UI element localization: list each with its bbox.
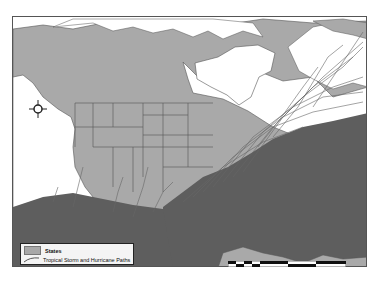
legend-item-states: States: [24, 246, 62, 255]
legend-label: Tropical Storm and Hurricane Paths: [43, 257, 130, 263]
legend-label: States: [45, 248, 62, 254]
map-frame[interactable]: [12, 16, 367, 267]
map-canvas[interactable]: [13, 17, 367, 267]
legend-item-storm-paths: Tropical Storm and Hurricane Paths: [24, 256, 130, 263]
north-arrow-compass: [27, 98, 49, 120]
states-polygon-icon: [24, 246, 41, 255]
scale-bar: [228, 253, 346, 259]
storm-path-line-icon: [24, 256, 39, 263]
map-legend: States Tropical Storm and Hurricane Path…: [20, 243, 134, 265]
